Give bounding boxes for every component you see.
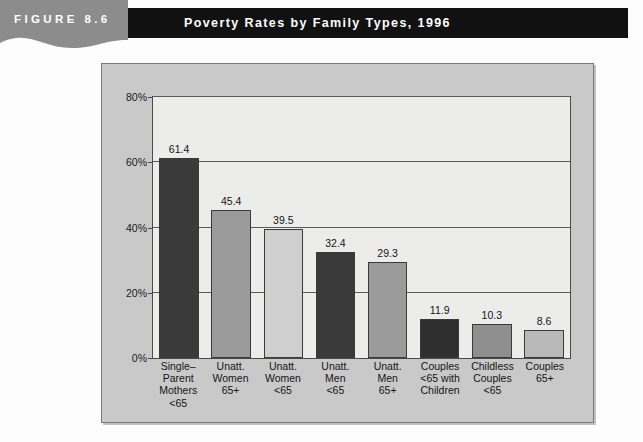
x-axis-label-line: Mothers — [152, 384, 204, 396]
bar-slot: 11.9 — [414, 97, 466, 358]
x-axis-label-line: Children — [414, 384, 466, 396]
x-axis-labels: Single–ParentMothers<65Unatt.Women65+Una… — [152, 360, 571, 418]
y-axis-tick-label: 40% — [126, 222, 147, 234]
x-axis-label-line: Childless — [466, 360, 518, 372]
x-axis-label-line: Couples — [414, 360, 466, 372]
figure-page: Poverty Rates by Family Types, 1996 FIGU… — [0, 0, 643, 442]
x-axis-label-line: <65 — [152, 397, 204, 409]
x-axis-label-line: <65 — [309, 384, 361, 396]
x-axis-label-line: Women — [204, 372, 256, 384]
x-axis-label-line: Couples — [519, 360, 571, 372]
x-axis-category-label: Unatt.Women<65 — [257, 360, 309, 397]
bar-slot: 45.4 — [205, 97, 257, 358]
bar-value-label: 8.6 — [537, 315, 552, 327]
x-axis-category-label: Unatt.Men<65 — [309, 360, 361, 397]
x-axis-label-line: Unatt. — [204, 360, 256, 372]
x-axis-category-label: Unatt.Men65+ — [362, 360, 414, 397]
bar-value-label: 61.4 — [169, 143, 189, 155]
bar-slot: 29.3 — [362, 97, 414, 358]
x-axis-label-line: Unatt. — [257, 360, 309, 372]
bar-value-label: 10.3 — [482, 309, 502, 321]
bar-slot: 32.4 — [309, 97, 361, 358]
bar-slot: 39.5 — [257, 97, 309, 358]
x-axis-category-label: Couples<65 withChildren — [414, 360, 466, 397]
x-axis-label-line: Women — [257, 372, 309, 384]
x-axis-label-line: <65 — [257, 384, 309, 396]
bar-value-label: 29.3 — [377, 247, 397, 259]
y-axis-tick-label: 0% — [132, 352, 147, 364]
bar[interactable] — [472, 324, 512, 358]
plot-area: 0%20%40%60%80% 61.445.439.532.429.311.91… — [152, 96, 571, 359]
title-bar: Poverty Rates by Family Types, 1996 — [124, 8, 628, 38]
bar-slot: 8.6 — [518, 97, 570, 358]
bar-value-label: 39.5 — [273, 214, 293, 226]
y-axis-tick-label: 20% — [126, 287, 147, 299]
bar-value-label: 45.4 — [221, 195, 241, 207]
bar-slot: 61.4 — [153, 97, 205, 358]
figure-title: Poverty Rates by Family Types, 1996 — [184, 16, 451, 30]
y-axis-tick-label: 60% — [126, 156, 147, 168]
x-axis-category-label: Unatt.Women65+ — [204, 360, 256, 397]
x-axis-label-line: Single– — [152, 360, 204, 372]
x-axis-label-line: Men — [362, 372, 414, 384]
x-axis-label-line: 65+ — [362, 384, 414, 396]
x-axis-label-line: <65 with — [414, 372, 466, 384]
bar[interactable] — [368, 262, 408, 358]
x-axis-category-label: Single–ParentMothers<65 — [152, 360, 204, 409]
bar[interactable] — [211, 210, 251, 358]
figure-header: Poverty Rates by Family Types, 1996 FIGU… — [0, 0, 643, 56]
x-axis-label-line: Unatt. — [362, 360, 414, 372]
bar-value-label: 32.4 — [325, 237, 345, 249]
bar[interactable] — [159, 158, 199, 358]
figure-number-label: FIGURE 8.6 — [14, 13, 111, 25]
y-axis-tick-mark — [148, 358, 153, 359]
bar[interactable] — [316, 252, 356, 358]
x-axis-label-line: <65 — [466, 384, 518, 396]
x-axis-label-line: 65+ — [519, 372, 571, 384]
x-axis-label-line: 65+ — [204, 384, 256, 396]
x-axis-label-line: Unatt. — [309, 360, 361, 372]
x-axis-label-line: Men — [309, 372, 361, 384]
bar[interactable] — [420, 319, 460, 358]
bars-layer: 61.445.439.532.429.311.910.38.6 — [153, 97, 570, 358]
x-axis-label-line: Parent — [152, 372, 204, 384]
x-axis-category-label: ChildlessCouples<65 — [466, 360, 518, 397]
bar-slot: 10.3 — [466, 97, 518, 358]
bar[interactable] — [264, 229, 304, 358]
figure-number-tab: FIGURE 8.6 — [0, 0, 128, 48]
x-axis-category-label: Couples65+ — [519, 360, 571, 384]
x-axis-label-line: Couples — [466, 372, 518, 384]
bar-value-label: 11.9 — [430, 304, 450, 316]
chart-panel: 0%20%40%60%80% 61.445.439.532.429.311.91… — [101, 63, 594, 423]
y-axis-tick-label: 80% — [126, 91, 147, 103]
bar[interactable] — [524, 330, 564, 358]
